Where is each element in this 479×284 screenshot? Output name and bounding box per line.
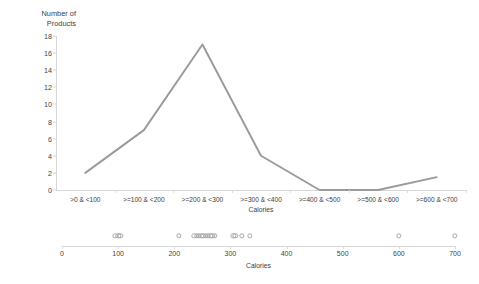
dot-plot-tick-label: 200 [168, 250, 180, 257]
y-axis-tick-label: 8 [48, 117, 52, 126]
x-axis-tick-mark [232, 190, 233, 193]
dot-plot-point [239, 233, 244, 238]
dot-plot-tick-label: 300 [225, 250, 237, 257]
x-axis-title: Calories [56, 206, 466, 213]
plot-area: 024681012141618 [56, 36, 466, 190]
dot-plot-chart: 0100200300400500600700 Calories [0, 222, 479, 284]
x-axis-line [56, 190, 466, 191]
y-axis-tick-label: 10 [44, 100, 52, 109]
dot-plot-tick-label: 100 [112, 250, 124, 257]
dot-plot-point [118, 233, 123, 238]
dot-plot-tick-label: 600 [393, 250, 405, 257]
dot-plot-tick-label: 0 [60, 250, 64, 257]
y-axis-title: Number of Products [8, 9, 76, 28]
x-axis-category-label: >=500 & <600 [357, 196, 399, 203]
dot-plot-point [233, 233, 238, 238]
dot-plot-tick-label: 500 [337, 250, 349, 257]
dot-plot-tick-mark [287, 246, 288, 249]
dot-plot-tick-mark [455, 246, 456, 249]
x-axis-category-label: >=300 & <400 [240, 196, 282, 203]
dot-plot-point [396, 233, 401, 238]
y-axis-tick-label: 0 [48, 186, 52, 195]
dot-plot-axis-title: Calories [62, 262, 455, 269]
dot-plot-point [247, 233, 252, 238]
x-axis-tick-mark [349, 190, 350, 193]
dot-plot-point [212, 233, 217, 238]
dot-plot-tick-label: 400 [281, 250, 293, 257]
dot-plot-tick-mark [399, 246, 400, 249]
x-axis-category-label: >=100 & <200 [123, 196, 165, 203]
x-axis-category-label: >=600 & <700 [416, 196, 458, 203]
y-axis-tick-label: 2 [48, 168, 52, 177]
dot-plot-tick-mark [230, 246, 231, 249]
x-axis-tick-mark [466, 190, 467, 193]
y-axis-tick-label: 4 [48, 151, 52, 160]
dot-plot-point [176, 233, 181, 238]
x-axis-tick-mark [290, 190, 291, 193]
frequency-polygon-chart: Number of Products 024681012141618 >0 & … [0, 0, 479, 220]
x-axis-category-label: >=200 & <300 [182, 196, 224, 203]
x-axis-tick-mark [115, 190, 116, 193]
dot-plot-tick-label: 700 [449, 250, 461, 257]
y-axis-tick-label: 12 [44, 83, 52, 92]
y-axis-tick-label: 6 [48, 134, 52, 143]
dot-plot-tick-mark [343, 246, 344, 249]
y-axis-tick-label: 14 [44, 66, 52, 75]
dot-plot-tick-mark [62, 246, 63, 249]
y-axis-tick-label: 18 [44, 32, 52, 41]
x-axis-tick-mark [407, 190, 408, 193]
y-axis-tick-label: 16 [44, 49, 52, 58]
x-axis-category-label: >=400 & <500 [299, 196, 341, 203]
frequency-polygon-line [56, 36, 466, 190]
x-axis-tick-mark [173, 190, 174, 193]
x-axis-category-label: >0 & <100 [70, 196, 100, 203]
dot-plot-point [452, 233, 457, 238]
dot-plot-tick-mark [118, 246, 119, 249]
dot-plot-tick-mark [174, 246, 175, 249]
dot-plot-axis-line [62, 246, 455, 247]
